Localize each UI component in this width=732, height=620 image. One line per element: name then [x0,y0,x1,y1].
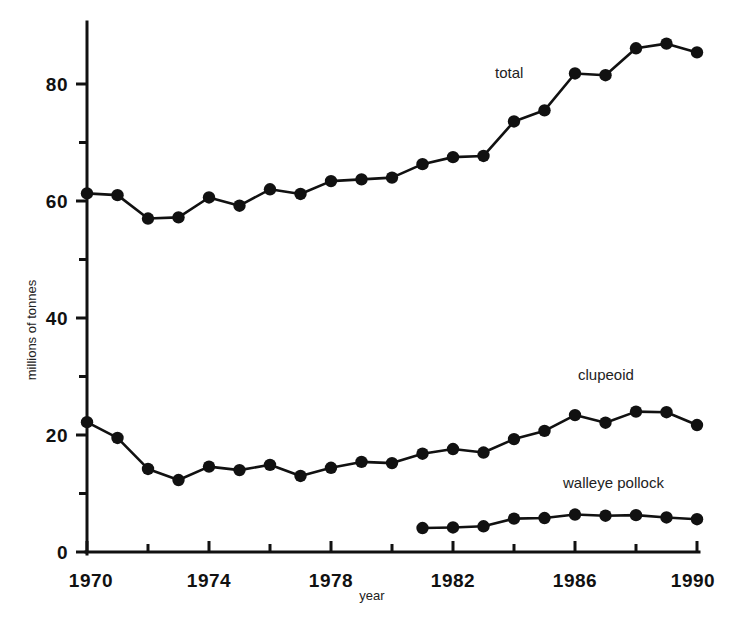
data-point [538,104,550,116]
data-point [203,460,215,472]
data-point [294,470,306,482]
data-point [386,457,398,469]
data-point [142,212,154,224]
y-tick-label-0: 0 [57,542,68,563]
data-point [569,409,581,421]
data-point [416,158,428,170]
series-total [81,37,703,224]
data-point [81,187,93,199]
data-point [447,443,459,455]
data-point [660,511,672,523]
data-point [81,416,93,428]
x-axis-ticks [87,541,697,552]
series-path [423,515,698,528]
data-point [264,183,276,195]
x-tick-label-1970: 1970 [69,570,113,591]
data-point [477,520,489,532]
data-point [630,509,642,521]
annotation-walleye-pollock: walleye pollock [562,474,664,491]
data-point [294,188,306,200]
x-tick-label-1990: 1990 [671,570,715,591]
chart-container: 0 20 40 60 80 1970 1974 1978 1982 1986 1… [0,0,732,620]
data-point [355,456,367,468]
data-point [111,189,123,201]
data-point [691,46,703,58]
data-point [172,211,184,223]
data-point [111,432,123,444]
data-point [142,463,154,475]
x-tick-label-1982: 1982 [431,570,475,591]
data-point [508,115,520,127]
data-point [447,151,459,163]
y-tick-label-20: 20 [46,425,68,446]
data-point [386,171,398,183]
y-tick-label-80: 80 [46,74,68,95]
y-tick-label-60: 60 [46,191,68,212]
data-point [569,67,581,79]
annotation-total: total [495,64,523,81]
data-point [325,462,337,474]
data-point [477,446,489,458]
data-point [416,522,428,534]
data-point [477,150,489,162]
data-point [538,512,550,524]
data-point [264,459,276,471]
data-point [660,37,672,49]
x-tick-label-1986: 1986 [553,570,597,591]
data-point [599,417,611,429]
data-point [538,425,550,437]
data-point [508,512,520,524]
data-point [630,42,642,54]
y-axis-title: millions of tonnes [24,279,39,380]
data-point [599,510,611,522]
data-point [233,464,245,476]
y-axis-ticks [76,84,87,552]
x-tick-label-1978: 1978 [309,570,353,591]
x-tick-label-1974: 1974 [187,570,231,591]
fisheries-line-chart: 0 20 40 60 80 1970 1974 1978 1982 1986 1… [0,0,732,620]
data-point [660,406,672,418]
data-point [203,191,215,203]
series-layer [81,37,703,534]
series-walleye-pollock [416,508,703,534]
data-point [416,448,428,460]
y-tick-label-40: 40 [46,308,68,329]
data-point [599,69,611,81]
data-point [691,419,703,431]
data-point [355,173,367,185]
data-point [325,175,337,187]
data-point [508,433,520,445]
data-point [447,521,459,533]
data-point [233,199,245,211]
data-point [172,474,184,486]
data-point [569,508,581,520]
x-axis-title: year [359,588,385,603]
data-point [630,405,642,417]
data-point [691,513,703,525]
annotation-clupeoid: clupeoid [578,366,634,383]
